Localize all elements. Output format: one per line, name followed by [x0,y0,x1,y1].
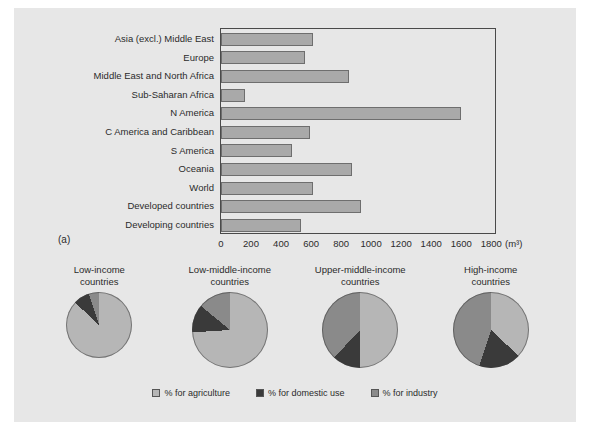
pie-title: High-incomecountries [464,264,517,288]
bar-category-label: Sub-Saharan Africa [34,86,220,105]
figure-container: Asia (excl.) Middle EastEuropeMiddle Eas… [14,8,576,422]
pie-chart [66,292,132,358]
bar-row [221,216,495,235]
bar-category-label: C America and Caribbean [34,123,220,142]
x-axis-tick: 600 [303,238,319,249]
x-axis-tick: 200 [243,238,259,249]
bar [221,219,301,232]
legend-swatch [256,389,264,397]
pie-chart [322,292,398,368]
bar [221,33,313,46]
panel-a-label: (a) [58,234,70,245]
bar [221,107,461,120]
bar-row [221,179,495,198]
bar-row [221,86,495,105]
bar-series [221,30,495,234]
bar-category-label: Europe [34,49,220,68]
pie-group: Low-incomecountriesLow-middle-incomecoun… [34,264,556,386]
pie-chart [192,292,268,368]
pie-title: Upper-middle-incomecountries [315,264,406,288]
pie-cell: High-incomecountries [431,264,551,368]
bar-row [221,104,495,123]
legend-label: % for domestic use [268,388,345,398]
bar-row [221,30,495,49]
bar-category-label: Developed countries [34,197,220,216]
bar-row [221,123,495,142]
bar [221,200,361,213]
pie-title-line-2: countries [315,276,406,288]
x-axis-tick: 1200 [391,238,412,249]
bar-category-label: Developing countries [34,216,220,235]
pie-title-line-2: countries [189,276,271,288]
x-axis-tick: 400 [273,238,289,249]
legend-item: % for industry [371,388,438,398]
bar-x-axis: (m³) 020040060080010001200140016001800 [220,234,510,254]
x-axis-tick: 1600 [451,238,472,249]
x-axis-tick: 1800 [481,238,502,249]
bar-row [221,197,495,216]
pie-cell: Low-middle-incomecountries [170,264,290,368]
legend-label: % for agriculture [164,388,230,398]
pie-title-line-2: countries [74,276,125,288]
pie-title-line-1: Low-income [74,264,125,276]
legend-swatch [371,389,379,397]
bar [221,163,352,176]
x-axis-unit-label: (m³) [505,238,522,249]
legend-label: % for industry [383,388,438,398]
bar-category-label: Middle East and North Africa [34,67,220,86]
bar [221,182,313,195]
x-axis-tick: 1400 [421,238,442,249]
bar-category-labels: Asia (excl.) Middle EastEuropeMiddle Eas… [34,30,220,235]
pie-cell: Upper-middle-incomecountries [300,264,420,368]
bar-chart-panel: Asia (excl.) Middle EastEuropeMiddle Eas… [14,8,576,256]
pie-title-line-2: countries [464,276,517,288]
pie-cell: Low-incomecountries [39,264,159,358]
legend-item: % for domestic use [256,388,345,398]
legend-item: % for agriculture [152,388,230,398]
bar-row [221,142,495,161]
pie-title-line-1: Upper-middle-income [315,264,406,276]
bar-category-label: S America [34,142,220,161]
bar-category-label: N America [34,104,220,123]
pie-title-line-1: Low-middle-income [189,264,271,276]
bar [221,70,349,83]
bar-category-label: World [34,179,220,198]
bar [221,126,310,139]
pie-chart [453,292,529,368]
x-axis-tick: 0 [218,238,223,249]
bar-row [221,49,495,68]
pie-title-line-1: High-income [464,264,517,276]
pie-legend: % for agriculture% for domestic use% for… [14,388,576,398]
bar-row [221,160,495,179]
bar-category-label: Oceania [34,160,220,179]
pie-chart-panel: Low-incomecountriesLow-middle-incomecoun… [14,256,576,422]
pie-title: Low-incomecountries [74,264,125,288]
bar-category-label: Asia (excl.) Middle East [34,30,220,49]
bar [221,89,245,102]
bar-row [221,67,495,86]
x-axis-tick: 800 [333,238,349,249]
x-axis-tick: 1000 [361,238,382,249]
pie-title: Low-middle-incomecountries [189,264,271,288]
bar [221,144,292,157]
legend-swatch [152,389,160,397]
bar [221,51,305,64]
